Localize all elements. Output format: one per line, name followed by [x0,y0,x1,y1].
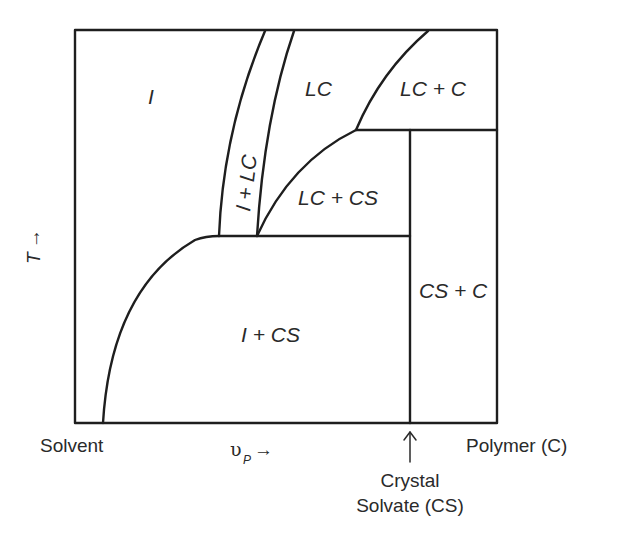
x-endpoint-solvent: Solvent [40,435,104,456]
region-label-cs-c: CS + C [419,279,488,302]
x-endpoint-polymer: Polymer (C) [466,435,567,456]
crystal-solvate-arrow-icon [404,432,416,462]
svg-text:→: → [23,229,44,248]
boundary-ilc-lc [257,31,294,236]
boundary-lc-lccs [257,130,356,236]
crystal-solvate-label-line2: Solvate (CS) [356,495,464,516]
svg-text:P: P [243,453,251,467]
y-axis-label: T → [23,229,44,264]
region-label-i-cs: I + CS [241,323,300,346]
region-label-lc-c: LC + C [400,77,467,100]
phase-diagram: I I + LC LC LC + C LC + CS I + CS CS + C… [0,0,620,547]
crystal-solvate-label-line1: Crystal [380,470,439,491]
region-label-lc: LC [305,77,333,100]
svg-text:→: → [254,439,273,460]
region-label-i: I [148,85,154,108]
svg-text:T: T [23,251,44,264]
region-label-lc-cs: LC + CS [298,186,378,209]
region-label-i-lc: I + LC [231,153,261,213]
boundary-i-ics [103,236,219,423]
svg-text:υ: υ [230,438,242,460]
x-axis-label: υ P → [230,438,273,467]
